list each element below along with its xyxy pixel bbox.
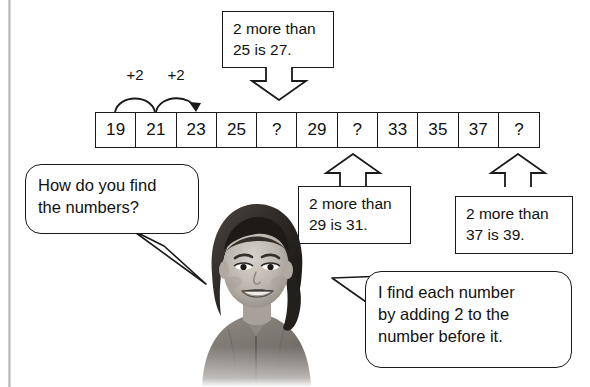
question-bubble-line-1: How do you find xyxy=(38,175,186,197)
callout-29-line-1: 2 more than xyxy=(309,194,401,215)
callout-25-box: 2 more than 25 is 27. xyxy=(222,11,334,68)
step-label-1: +2 xyxy=(126,66,143,83)
callout-37-line-2: 37 is 39. xyxy=(466,225,563,246)
strip-cell-blank[interactable]: ? xyxy=(338,113,378,147)
answer-bubble: I find each number by adding 2 to the nu… xyxy=(365,271,572,368)
callout-37-box: 2 more than 37 is 39. xyxy=(455,196,573,254)
page-edge-shadow xyxy=(8,0,11,387)
number-pattern-strip: 19 21 23 25 ? 29 ? 33 35 37 ? xyxy=(95,112,540,148)
strip-cell-blank[interactable]: ? xyxy=(257,113,297,147)
callout-25-line-2: 25 is 27. xyxy=(233,40,324,61)
strip-cell[interactable]: 23 xyxy=(177,113,217,147)
callout-37-line-1: 2 more than xyxy=(466,204,563,225)
question-bubble: How do you find the numbers? xyxy=(25,164,199,234)
question-bubble-tail xyxy=(130,228,215,290)
step-label-2: +2 xyxy=(167,66,184,83)
strip-cell[interactable]: 25 xyxy=(217,113,257,147)
strip-cell[interactable]: 21 xyxy=(136,113,176,147)
callout-25-line-1: 2 more than xyxy=(233,19,324,40)
strip-cell[interactable]: 33 xyxy=(378,113,418,147)
question-bubble-line-2: the numbers? xyxy=(38,197,186,219)
answer-bubble-line-2: by adding 2 to the xyxy=(378,304,559,326)
answer-bubble-line-3: number before it. xyxy=(378,326,559,348)
callout-37-up-arrow-icon xyxy=(487,153,549,187)
answer-bubble-line-1: I find each number xyxy=(378,282,559,304)
strip-cell[interactable]: 35 xyxy=(418,113,458,147)
strip-cell[interactable]: 37 xyxy=(459,113,499,147)
strip-cell[interactable]: 29 xyxy=(297,113,337,147)
callout-29-up-arrow-icon xyxy=(322,153,384,187)
callout-25-down-arrow-icon xyxy=(248,67,310,101)
callout-29-line-2: 29 is 31. xyxy=(309,215,401,236)
worksheet-page: +2 +2 19 21 23 25 ? 29 ? 33 35 37 ? 2 mo… xyxy=(0,0,590,387)
strip-cell[interactable]: 19 xyxy=(96,113,136,147)
step-arrows-group: +2 +2 xyxy=(95,66,255,114)
strip-cell-blank[interactable]: ? xyxy=(499,113,539,147)
photo-of-smiling-girl xyxy=(188,196,322,387)
